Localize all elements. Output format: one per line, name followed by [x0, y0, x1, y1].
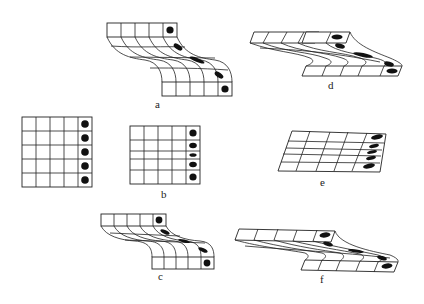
panel-label-d: d [328, 79, 334, 91]
panel-f-shear [235, 229, 398, 272]
panel-d-shear [250, 32, 402, 76]
panel-label-a: a [155, 98, 160, 110]
panel-label-b: b [161, 188, 167, 200]
undeformed-grid [22, 117, 92, 187]
panel-label-c: c [158, 270, 163, 282]
panel-label-e: e [320, 176, 325, 188]
panel-a-shear [107, 23, 232, 96]
diagram-canvas [0, 0, 424, 304]
panel-label-f: f [320, 273, 324, 285]
panel-b-grid [130, 126, 200, 184]
panel-e-grid [278, 131, 386, 172]
panel-c-shear [101, 214, 214, 269]
